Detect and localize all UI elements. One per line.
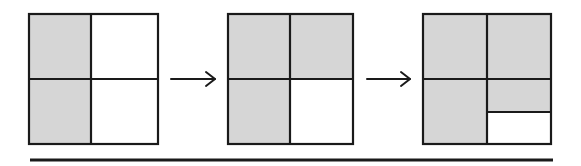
cell-top-left-shaded xyxy=(228,14,290,79)
cell-bottom-right-upper-shaded xyxy=(487,79,551,112)
cell-bottom-right-lower-empty xyxy=(487,112,551,144)
cell-top-right-empty xyxy=(91,14,158,79)
cell-bottom-left-shaded xyxy=(29,79,91,144)
cell-bottom-right-empty xyxy=(290,79,353,144)
arrow-right-icon xyxy=(171,72,215,86)
grid-step-3 xyxy=(423,14,551,144)
cell-bottom-right-empty xyxy=(91,79,158,144)
cell-top-left-shaded xyxy=(29,14,91,79)
arrow-right-icon xyxy=(367,72,410,86)
cell-bottom-left-shaded xyxy=(423,79,487,144)
grid-step-1 xyxy=(29,14,158,144)
cell-top-right-shaded xyxy=(487,14,551,79)
grid-sequence-diagram xyxy=(0,0,581,166)
cell-top-left-shaded xyxy=(423,14,487,79)
cell-bottom-left-shaded xyxy=(228,79,290,144)
cell-top-right-shaded xyxy=(290,14,353,79)
grid-step-2 xyxy=(228,14,353,144)
